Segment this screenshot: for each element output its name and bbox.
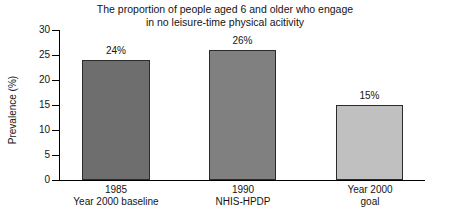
y-tick-label-20: 20 [22,75,50,85]
y-tick-label-25: 25 [22,50,50,60]
bar-value-year-2000-goal: 15% [336,91,403,101]
chart-title-line-2: in no leisure-time physical acitivity [55,16,395,29]
bar-value-1985: 24% [82,46,150,56]
category-label-goal-line-1: Year 2000 [310,184,430,196]
category-label-1990: 1990 NHIS-HPDP [183,184,303,208]
bar-1985[interactable] [82,60,150,180]
y-axis-tick-labels: 30 25 20 15 10 5 0 [16,0,50,220]
bar-value-1990: 26% [209,36,276,46]
y-tick-label-5: 5 [22,150,50,160]
category-label-1985: 1985 Year 2000 baseline [56,184,176,208]
category-label-goal-line-2: goal [310,196,430,208]
y-axis-line [59,30,60,181]
y-tick-label-10: 10 [22,125,50,135]
category-label-1985-line-2: Year 2000 baseline [56,196,176,208]
chart-title-line-1: The proportion of people aged 6 and olde… [55,3,395,16]
bar-chart-figure: The proportion of people aged 6 and olde… [0,0,450,220]
y-tick-label-0: 0 [22,175,50,185]
chart-title: The proportion of people aged 6 and olde… [55,3,395,28]
y-tick-label-30: 30 [22,25,50,35]
category-label-1990-line-2: NHIS-HPDP [183,196,303,208]
y-tick-label-15: 15 [22,100,50,110]
category-label-year-2000-goal: Year 2000 goal [310,184,430,208]
bar-1990[interactable] [209,50,276,180]
category-label-1990-line-1: 1990 [183,184,303,196]
category-label-1985-line-1: 1985 [56,184,176,196]
x-axis-line [59,180,425,181]
bar-year-2000-goal[interactable] [336,105,403,180]
